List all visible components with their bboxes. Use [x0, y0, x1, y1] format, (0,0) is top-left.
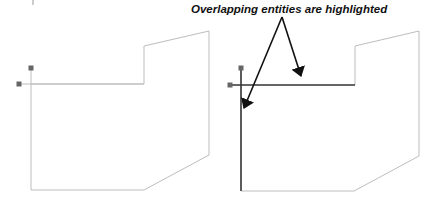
arrow-to-vertical-icon: [244, 17, 282, 108]
outline-before[interactable]: [31, 31, 209, 190]
arrow-to-horizontal-icon: [282, 17, 301, 76]
grip-handle-top[interactable]: [29, 66, 34, 71]
grip-handle-top[interactable]: [239, 66, 244, 71]
diagram-svg: [0, 0, 434, 204]
panel-before: [17, 31, 210, 190]
grip-handle-left[interactable]: [17, 82, 22, 87]
panel-after: [228, 31, 420, 191]
grip-handle-left[interactable]: [228, 83, 233, 88]
callout-caption: Overlapping entities are highlighted: [191, 2, 381, 16]
outline-after[interactable]: [241, 31, 419, 191]
diagram-canvas: Overlapping entities are highlighted: [0, 0, 434, 204]
callout-arrows: [244, 17, 301, 108]
